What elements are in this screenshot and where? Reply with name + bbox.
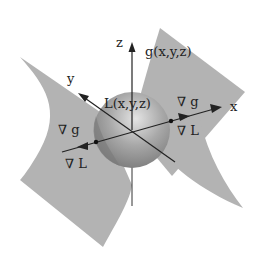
grad-g-left-label: ∇ g [58,123,80,136]
x-axis-label: x [230,100,237,113]
z-axis-arrowhead [129,42,136,52]
tangency-point-right [169,119,173,123]
grad-L-right-label: ∇ L [177,124,199,137]
lagrange-diagram: z g(x,y,z) y L(x,y,z) ∇ g x ∇ L ∇ g ∇ L [0,0,257,264]
grad-L-left-label: ∇ L [65,157,87,170]
tangency-point-left [94,140,98,144]
diagram-canvas [0,0,257,264]
sphere-label: L(x,y,z) [104,97,151,110]
grad-g-right-label: ∇ g [177,95,199,108]
surface-label: g(x,y,z) [145,45,192,58]
z-axis-label: z [116,36,123,49]
y-axis-label: y [67,72,74,85]
